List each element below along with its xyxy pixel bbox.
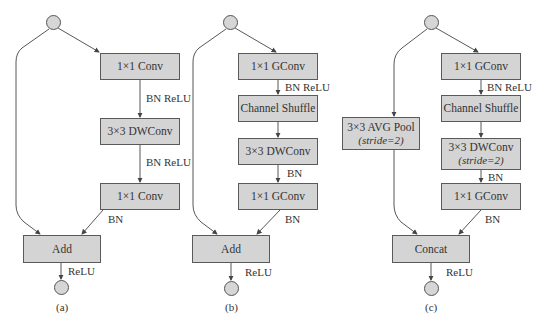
dwconv3x3-box: 3×3 DWConv (100, 118, 180, 145)
box-label: 1×1 GConv (454, 60, 508, 73)
box-label: 3×3 AVG Pool (347, 121, 415, 134)
edge-label: BN (287, 167, 302, 179)
edge-label: BN ReLU (146, 92, 191, 104)
box-label: Add (221, 243, 241, 256)
box-label: 1×1 GConv (251, 60, 305, 73)
caption: (b) (225, 301, 238, 313)
edge-label: BN (488, 171, 503, 183)
output-node (54, 280, 69, 295)
caption: (c) (425, 301, 437, 313)
edge-label: BN ReLU (285, 81, 330, 93)
edge-label: BN (285, 213, 300, 225)
box-label: 1×1 GConv (251, 190, 305, 203)
box-label: 1×1 GConv (454, 190, 508, 203)
output-node (424, 281, 439, 296)
box-label: Channel Shuffle (241, 102, 316, 115)
edge-label: ReLU (245, 266, 272, 278)
gconv1x1-box: 1×1 GConv (441, 53, 521, 80)
input-node (223, 15, 238, 30)
box-label: Add (52, 243, 72, 256)
conv1x1-box: 1×1 Conv (100, 183, 180, 210)
box-sublabel: (stride=2) (358, 134, 403, 147)
edge-label: ReLU (446, 266, 473, 278)
box-label: Channel Shuffle (444, 102, 519, 115)
edge-label: BN ReLU (146, 156, 191, 168)
add-box: Add (23, 235, 101, 263)
gconv1x1-box: 1×1 GConv (238, 183, 318, 210)
box-label: Concat (415, 243, 448, 256)
channel-shuffle-box: Channel Shuffle (238, 95, 318, 122)
box-label: 3×3 DWConv (108, 125, 173, 138)
channel-shuffle-box: Channel Shuffle (441, 95, 521, 122)
edge-label: BN ReLU (487, 81, 532, 93)
caption: (a) (56, 301, 68, 313)
gconv1x1-box: 1×1 GConv (441, 183, 521, 210)
box-label: 3×3 DWConv (449, 141, 514, 154)
box-label: 1×1 Conv (117, 190, 163, 203)
concat-box: Concat (392, 235, 470, 263)
input-node (424, 15, 439, 30)
box-label: 1×1 Conv (117, 60, 163, 73)
input-node (46, 15, 61, 30)
gconv1x1-box: 1×1 GConv (238, 53, 318, 80)
avgpool-box: 3×3 AVG Pool (stride=2) (342, 117, 420, 150)
box-sublabel: (stride=2) (458, 154, 503, 167)
dwconv3x3-stride-box: 3×3 DWConv (stride=2) (441, 138, 521, 170)
edge-label: ReLU (68, 265, 95, 277)
conv1x1-box: 1×1 Conv (100, 53, 180, 80)
dwconv3x3-box: 3×3 DWConv (238, 138, 318, 165)
box-label: 3×3 DWConv (246, 145, 311, 158)
output-node (224, 281, 239, 296)
edge-label: BN (485, 213, 500, 225)
add-box: Add (192, 235, 270, 263)
edge-label: BN (108, 213, 123, 225)
